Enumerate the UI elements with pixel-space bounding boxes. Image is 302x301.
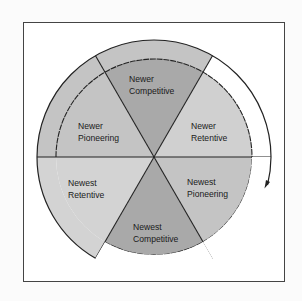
label-newer-pioneering-2: Pioneering	[78, 133, 119, 143]
label-newer-retentive-2: Retentive	[191, 133, 228, 143]
label-newest-retentive-2: Retentive	[68, 190, 105, 200]
label-newer-competitive-2: Competitive	[129, 86, 175, 96]
label-newer-competitive-1: Newer	[129, 74, 154, 84]
label-newest-pioneering-2: Pioneering	[187, 189, 228, 199]
label-newer-pioneering-1: Newer	[78, 121, 103, 131]
label-newer-retentive-1: Newer	[191, 121, 216, 131]
product-cycle-diagram: Newer Competitive Newer Retentive Newest…	[0, 0, 302, 301]
label-newest-competitive-2: Competitive	[133, 234, 179, 244]
label-newest-pioneering-1: Newest	[187, 177, 216, 187]
label-newest-competitive-1: Newest	[133, 222, 162, 232]
label-newest-retentive-1: Newest	[68, 178, 97, 188]
